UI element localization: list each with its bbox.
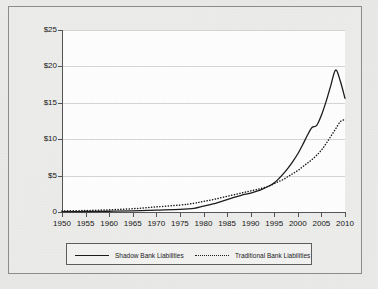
series-line-traditional-bank xyxy=(62,120,345,211)
y-axis-tick-label-wrap: $10 xyxy=(0,135,57,143)
x-tick-mark xyxy=(156,213,157,217)
line-chart: 0$5$10$15$20$25 195019551960196519701975… xyxy=(0,0,378,289)
x-tick-mark xyxy=(345,213,346,217)
chart-legend: Shadow Bank Liabilities Traditional Bank… xyxy=(66,243,312,265)
x-tick-mark xyxy=(133,213,134,217)
y-axis-tick-label: $15 xyxy=(5,99,57,107)
x-tick-mark xyxy=(274,213,275,217)
x-tick-mark xyxy=(180,213,181,217)
y-axis-tick-label: 0 xyxy=(5,208,57,216)
legend-entry-shadow-bank: Shadow Bank Liabilities xyxy=(75,249,184,261)
x-tick-mark xyxy=(86,213,87,217)
legend-label-shadow-bank: Shadow Bank Liabilities xyxy=(115,252,184,259)
y-axis-tick-label: $10 xyxy=(5,135,57,143)
y-axis-tick-label: $20 xyxy=(5,62,57,70)
y-axis-tick-label-wrap: $25 xyxy=(0,26,57,34)
x-tick-mark xyxy=(321,213,322,217)
series-line-shadow-bank xyxy=(62,70,345,212)
legend-label-traditional-bank: Traditional Bank Liabilities xyxy=(235,252,310,259)
y-axis-tick-label-wrap: 0 xyxy=(0,208,57,216)
y-axis-tick-label: $5 xyxy=(5,172,57,180)
x-tick-mark xyxy=(109,213,110,217)
x-tick-mark xyxy=(204,213,205,217)
x-axis-tick-label: 2010 xyxy=(330,219,360,228)
legend-swatch-dotted-line-icon xyxy=(195,251,229,259)
x-tick-mark xyxy=(62,213,63,217)
y-axis-tick-label-wrap: $5 xyxy=(0,172,57,180)
x-tick-mark xyxy=(227,213,228,217)
legend-swatch-solid-line-icon xyxy=(75,251,109,259)
legend-entry-traditional-bank: Traditional Bank Liabilities xyxy=(195,249,310,261)
x-tick-mark xyxy=(251,213,252,217)
y-axis-tick-label: $25 xyxy=(5,26,57,34)
x-tick-mark xyxy=(298,213,299,217)
y-axis-tick-label-wrap: $20 xyxy=(0,62,57,70)
y-axis-tick-label-wrap: $15 xyxy=(0,99,57,107)
data-series-layer xyxy=(62,30,345,212)
chart-page: 0$5$10$15$20$25 195019551960196519701975… xyxy=(0,0,378,289)
